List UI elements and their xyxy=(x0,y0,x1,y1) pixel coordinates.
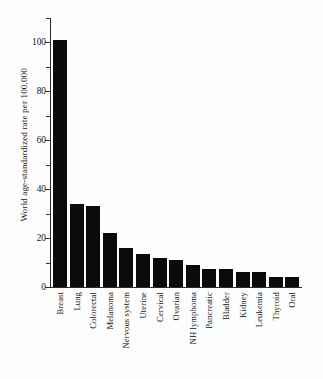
bar xyxy=(103,233,117,287)
x-tick-label: Colorectal xyxy=(88,292,98,329)
y-tick-major xyxy=(45,238,50,239)
x-tick-label: Melanoma xyxy=(105,292,115,330)
x-label-slot: Uterine xyxy=(136,290,150,378)
x-label-slot: Cervical xyxy=(153,290,167,378)
x-label-slot: Kidney xyxy=(236,290,250,378)
bar xyxy=(70,204,84,287)
x-tick-label: Leukemia xyxy=(254,292,264,327)
x-tick-label: Thyroid xyxy=(271,292,281,320)
bar xyxy=(219,269,233,287)
x-tick-label: Lung xyxy=(72,292,82,311)
y-tick-label: 100 xyxy=(32,37,46,47)
y-tick-minor xyxy=(46,18,50,19)
bar xyxy=(86,206,100,287)
bar xyxy=(53,40,67,287)
y-tick-minor xyxy=(46,214,50,215)
bar xyxy=(153,258,167,287)
bar xyxy=(285,277,299,287)
bar xyxy=(202,269,216,287)
bar xyxy=(136,254,150,287)
x-label-slot: Ovarian xyxy=(169,290,183,378)
x-tick-label: Nervous system xyxy=(121,292,131,349)
y-tick-major xyxy=(45,189,50,190)
y-tick-major xyxy=(45,140,50,141)
y-tick-major xyxy=(45,287,50,288)
x-label-slot: Bladder xyxy=(219,290,233,378)
x-label-slot: Leukemia xyxy=(252,290,266,378)
y-tick-minor xyxy=(46,263,50,264)
x-tick-label: Uterine xyxy=(138,292,148,318)
y-tick-minor xyxy=(46,67,50,68)
bar xyxy=(119,248,133,287)
bar xyxy=(169,260,183,287)
x-tick-label: Cervical xyxy=(155,292,165,322)
x-label-slot: Nervous system xyxy=(119,290,133,378)
x-label-slot: Melanoma xyxy=(103,290,117,378)
x-axis-line xyxy=(50,287,302,288)
y-tick-major xyxy=(45,91,50,92)
x-label-slot: Thyroid xyxy=(269,290,283,378)
bar xyxy=(186,265,200,287)
bar xyxy=(236,272,250,287)
x-label-slot: Oral xyxy=(285,290,299,378)
bar-chart-figure: World age-standardized rate per 100,000 … xyxy=(0,0,323,379)
x-tick-label: Bladder xyxy=(221,292,231,320)
x-label-slot: Colorectal xyxy=(86,290,100,378)
y-tick-minor xyxy=(46,116,50,117)
x-label-slot: NH lymphoma xyxy=(186,290,200,378)
bar xyxy=(269,277,283,287)
x-tick-label: NH lymphoma xyxy=(188,292,198,344)
x-tick-label: Breast xyxy=(55,292,65,315)
x-axis-tick-labels: BreastLungColorectalMelanomaNervous syst… xyxy=(51,290,302,378)
y-tick-minor xyxy=(46,165,50,166)
x-tick-label: Ovarian xyxy=(171,292,181,320)
y-tick-major xyxy=(45,42,50,43)
x-label-slot: Lung xyxy=(70,290,84,378)
x-tick-label: Kidney xyxy=(238,292,248,318)
x-tick-label: Pancreatic xyxy=(204,292,214,329)
x-label-slot: Pancreatic xyxy=(202,290,216,378)
x-tick-label: Oral xyxy=(287,292,297,308)
bar xyxy=(252,272,266,287)
x-label-slot: Breast xyxy=(53,290,67,378)
plot-area xyxy=(51,18,302,287)
y-axis-tick-labels: 020406080100 xyxy=(24,0,46,379)
